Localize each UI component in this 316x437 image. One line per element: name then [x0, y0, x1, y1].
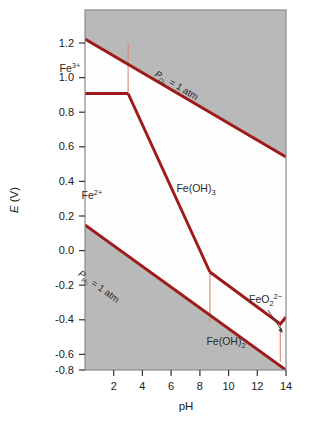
x-tick-label-2: 6: [168, 380, 174, 392]
y-axis-title: E (V): [8, 187, 20, 213]
species-label-feo2-sup: 2−: [274, 292, 283, 301]
y-tick-label-3: 0.6: [59, 140, 74, 152]
species-label-feoh3-base: Fe(OH): [176, 182, 211, 194]
pourbaix-diagram-figure: 1.2 1.0 0.8 0.6 0.4 0.2 0.0 -0.2 -0.4 -0…: [0, 0, 316, 437]
x-tick-label-4: 10: [222, 380, 234, 392]
y-axis-title-unit: (V): [8, 187, 20, 206]
y-tick-label-8: -0.4: [55, 313, 74, 325]
species-label-fe2-sup: 2+: [94, 188, 103, 197]
species-label-fe2-base: Fe: [82, 189, 94, 201]
y-tick-label-2: 0.8: [59, 106, 74, 118]
svg-text:E (V): E (V): [8, 187, 20, 213]
species-label-feoh2-base: Fe(OH): [206, 335, 241, 347]
x-tick-label-5: 12: [251, 380, 263, 392]
x-axis-title: pH: [179, 400, 194, 412]
y-tick-label-5: 0.2: [59, 210, 74, 222]
x-tick-label-0: 2: [111, 380, 117, 392]
y-tick-label-7: -0.2: [55, 279, 74, 291]
pourbaix-diagram-svg: 1.2 1.0 0.8 0.6 0.4 0.2 0.0 -0.2 -0.4 -0…: [0, 0, 316, 437]
species-label-feo2-base: FeO: [249, 293, 269, 305]
species-label-feoh3-sub: 3: [211, 188, 215, 197]
species-label-feoh2-sub: 2: [241, 341, 245, 350]
x-tick-label-6: 14: [280, 380, 292, 392]
x-tick-label-1: 4: [139, 380, 145, 392]
y-tick-label-4: 0.4: [59, 175, 74, 187]
species-label-fe3-base: Fe: [60, 62, 72, 74]
species-label-fe3-sup: 3+: [72, 61, 81, 70]
y-tick-label-10: -0.8: [55, 364, 74, 376]
y-tick-label-0: 1.2: [59, 37, 74, 49]
x-tick-label-3: 8: [197, 380, 203, 392]
y-tick-label-9: -0.6: [55, 348, 74, 360]
y-tick-label-6: 0.0: [59, 244, 74, 256]
